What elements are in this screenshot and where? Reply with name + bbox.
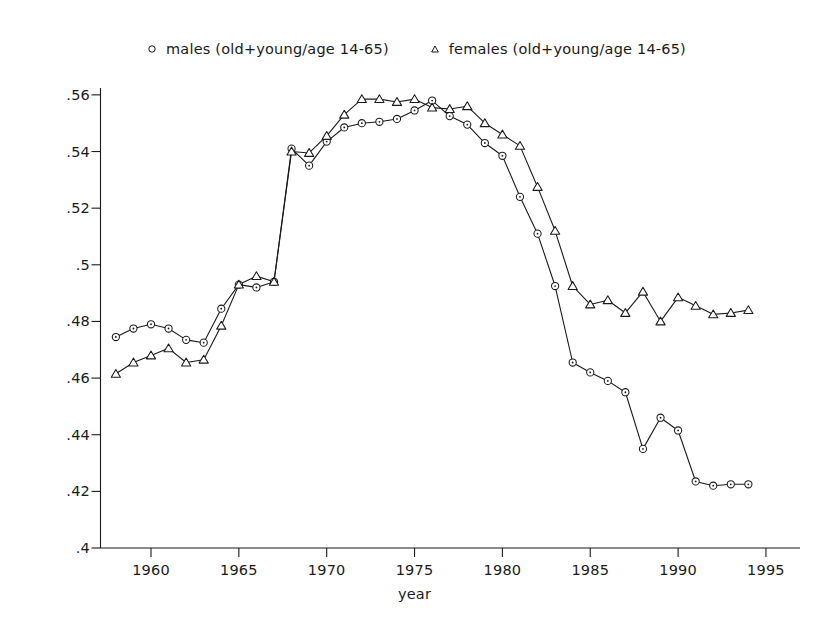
data-point-marker-triangle	[551, 226, 560, 234]
series-markers	[111, 95, 753, 490]
data-point-center-dot	[431, 100, 433, 102]
data-point-marker-triangle	[638, 287, 647, 295]
data-point-marker-triangle	[603, 296, 612, 304]
data-point-center-dot	[519, 196, 521, 198]
triangle-marker-icon	[429, 43, 441, 55]
series-lines	[116, 99, 749, 486]
data-point-center-dot	[203, 342, 205, 344]
data-point-marker-triangle	[463, 102, 472, 110]
circle-marker-icon	[146, 43, 158, 55]
data-point-center-dot	[695, 481, 697, 483]
legend-label-males: males (old+young/age 14-65)	[166, 42, 389, 57]
y-axis-tick-label: .42	[20, 484, 90, 499]
data-point-marker-triangle	[252, 272, 261, 280]
y-axis-tick-label: .44	[20, 428, 90, 443]
data-point-center-dot	[466, 124, 468, 126]
data-point-marker-triangle	[146, 351, 155, 359]
data-point-center-dot	[502, 155, 504, 157]
series-line-females	[116, 99, 749, 374]
y-axis-ticks	[92, 95, 101, 548]
data-point-center-dot	[484, 142, 486, 144]
x-axis-tick-label: 1995	[726, 563, 806, 578]
data-point-center-dot	[326, 141, 328, 143]
data-point-marker-triangle	[691, 301, 700, 309]
chart-figure: males (old+young/age 14-65) females (old…	[0, 0, 832, 637]
y-axis-tick-label: .46	[20, 371, 90, 386]
data-point-center-dot	[712, 485, 714, 487]
data-point-center-dot	[308, 165, 310, 167]
x-axis-tick-label: 1980	[462, 563, 542, 578]
data-point-center-dot	[115, 336, 117, 338]
data-point-center-dot	[220, 308, 222, 310]
data-point-center-dot	[396, 118, 398, 120]
data-point-marker-triangle	[428, 103, 437, 111]
x-axis-tick-label: 1985	[550, 563, 630, 578]
x-axis-ticks	[151, 548, 766, 557]
data-point-center-dot	[607, 380, 609, 382]
data-point-center-dot	[537, 233, 539, 235]
data-point-center-dot	[343, 127, 345, 129]
data-point-center-dot	[554, 285, 556, 287]
data-point-center-dot	[133, 328, 135, 330]
data-point-center-dot	[642, 448, 644, 450]
data-point-center-dot	[185, 339, 187, 341]
data-point-marker-triangle	[410, 95, 419, 103]
data-point-marker-triangle	[656, 317, 665, 325]
data-point-marker-triangle	[129, 358, 138, 366]
data-point-marker-triangle	[164, 344, 173, 352]
data-point-center-dot	[449, 115, 451, 117]
data-point-center-dot	[414, 110, 416, 112]
data-point-center-dot	[660, 417, 662, 419]
legend-entry-males: males (old+young/age 14-65)	[146, 42, 389, 57]
data-point-center-dot	[379, 121, 381, 123]
series-line-males	[116, 101, 749, 486]
data-point-center-dot	[747, 483, 749, 485]
data-point-marker-triangle	[217, 321, 226, 329]
x-axis-tick-label: 1965	[199, 563, 279, 578]
data-point-marker-triangle	[568, 282, 577, 290]
data-point-center-dot	[168, 328, 170, 330]
x-axis-tick-label: 1970	[287, 563, 367, 578]
x-axis-tick-label: 1960	[111, 563, 191, 578]
legend-entry-females: females (old+young/age 14-65)	[429, 42, 686, 57]
data-point-center-dot	[589, 372, 591, 374]
data-point-marker-triangle	[498, 130, 507, 138]
data-point-center-dot	[361, 122, 363, 124]
x-axis-tick-label: 1990	[638, 563, 718, 578]
data-point-marker-triangle	[515, 141, 524, 149]
y-axis-tick-label: .48	[20, 314, 90, 329]
data-point-marker-triangle	[199, 355, 208, 363]
data-point-center-dot	[572, 362, 574, 364]
chart-plot-area	[0, 0, 832, 637]
x-axis-title: year	[335, 586, 495, 602]
chart-legend: males (old+young/age 14-65) females (old…	[0, 36, 832, 62]
y-axis-tick-label: .56	[20, 88, 90, 103]
data-point-marker-triangle	[111, 369, 120, 377]
data-point-center-dot	[256, 287, 258, 289]
y-axis-tick-label: .54	[20, 145, 90, 160]
y-axis-tick-label: .4	[20, 541, 90, 556]
data-point-marker-triangle	[744, 306, 753, 314]
data-point-marker-triangle	[674, 293, 683, 301]
data-point-center-dot	[150, 323, 152, 325]
y-axis-tick-label: .52	[20, 201, 90, 216]
data-point-center-dot	[624, 391, 626, 393]
y-axis-tick-label: .5	[20, 258, 90, 273]
x-axis-tick-label: 1975	[375, 563, 455, 578]
data-point-marker-triangle	[533, 183, 542, 191]
data-point-center-dot	[677, 430, 679, 432]
legend-label-females: females (old+young/age 14-65)	[449, 42, 686, 57]
data-point-center-dot	[730, 483, 732, 485]
